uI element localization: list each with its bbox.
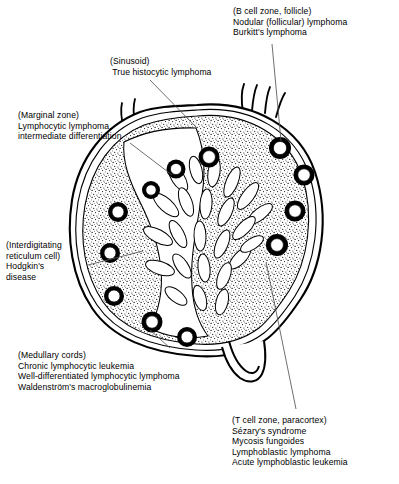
label-t-cell-zone: (T cell zone, paracortex) Sézary's syndr… — [232, 415, 348, 468]
hilum-efferent-vessel — [222, 341, 265, 381]
follicle — [142, 312, 163, 333]
follicle — [100, 243, 120, 263]
follicle — [199, 147, 220, 168]
follicle — [177, 327, 197, 347]
follicle — [142, 181, 160, 199]
follicle — [108, 202, 128, 222]
follicle — [294, 165, 315, 186]
label-sinusoid: (Sinusoid) True histocytic lymphoma — [110, 56, 212, 77]
label-medullary-cords: (Medullary cords) Chronic lymphocytic le… — [18, 350, 180, 392]
follicle — [285, 201, 306, 222]
follicle — [269, 137, 291, 159]
follicle — [104, 286, 124, 306]
label-marginal-zone: (Marginal zone) Lymphocytic lymphoma, in… — [18, 110, 122, 142]
follicle — [167, 160, 186, 179]
label-interdigitating-reticulum-cell: (Interdigitating reticulum cell) Hodgkin… — [6, 240, 62, 282]
label-b-cell-zone: (B cell zone, follicle) Nodular (follicu… — [233, 6, 347, 38]
follicle — [266, 234, 288, 256]
